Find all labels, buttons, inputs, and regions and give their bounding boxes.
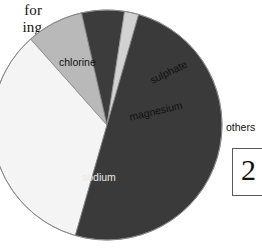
figure-number-badge: 2	[232, 148, 262, 196]
pie-chart-svg	[0, 0, 262, 252]
pie-label-others: others	[226, 121, 255, 133]
pie-chart: chlorine sulphate magnesium others sodiu…	[0, 0, 262, 252]
pie-label-chlorine: chlorine	[59, 56, 96, 68]
figure-page: for ing , chlorine sulphate magnesium ot…	[0, 0, 262, 252]
pie-slice-group	[0, 10, 222, 240]
pie-label-sodium: sodium	[82, 171, 116, 183]
figure-number-text: 2	[241, 153, 256, 187]
